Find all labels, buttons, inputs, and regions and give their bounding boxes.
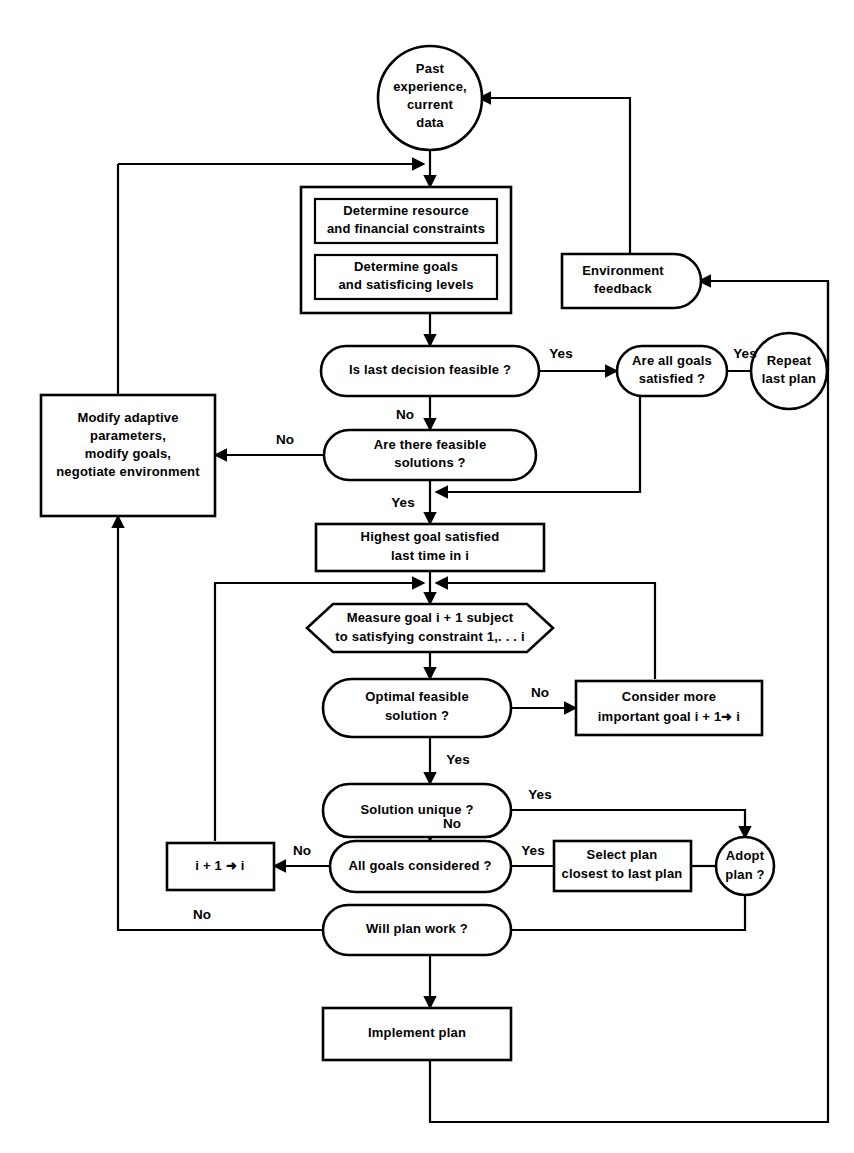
node-determine-goals: Determine goals and satisficing levels <box>315 255 497 299</box>
node-optimal-feasible-solution: Optimal feasible solution ? <box>323 679 511 737</box>
node-implement-plan-label: Implement plan <box>368 1025 466 1040</box>
node-past-experience-line-0: Past <box>416 61 445 76</box>
node-select-plan-closest: Select plan closest to last plan <box>554 841 691 891</box>
node-repeat-last-plan-line-1: last plan <box>762 371 817 386</box>
node-increment-i: i + 1 ➜ i <box>167 843 274 890</box>
node-is-last-decision-feasible-label: Is last decision feasible ? <box>349 362 511 377</box>
node-highest-goal-satisfied: Highest goal satisfied last time in i <box>316 524 544 571</box>
edge-label-optimal-no: No <box>531 685 549 700</box>
edge-label-allconsidered-no: No <box>293 843 311 858</box>
node-repeat-last-plan-line-0: Repeat <box>767 353 812 368</box>
node-consider-more-important-goal: Consider more important goal i + 1➜ i <box>576 681 762 735</box>
node-highest-goal-satisfied-line-0: Highest goal satisfied <box>361 529 500 544</box>
node-determine-resource-line-0: Determine resource <box>343 203 469 218</box>
node-determine-goals-line-1: and satisficing levels <box>338 277 473 292</box>
node-all-goals-considered-label: All goals considered ? <box>348 858 491 873</box>
node-implement-plan: Implement plan <box>323 1008 511 1060</box>
node-environment-feedback-line-1: feedback <box>594 281 653 296</box>
node-determine-resource-line-1: and financial constraints <box>327 221 485 236</box>
node-measure-goal-line-0: Measure goal i + 1 subject <box>347 610 514 625</box>
edge-label-feasiblesol-no: No <box>276 432 294 447</box>
edge-label-feasiblesol-yes: Yes <box>391 495 414 510</box>
node-select-plan-closest-line-0: Select plan <box>587 847 658 862</box>
node-measure-goal-line-1: to satisfying constraint 1,. . . i <box>335 629 525 644</box>
flowchart-canvas: Past experience, current data Determine … <box>0 0 854 1153</box>
node-environment-feedback-line-0: Environment <box>582 263 664 278</box>
node-past-experience-line-2: current <box>407 97 454 112</box>
node-are-there-feasible-solutions-line-0: Are there feasible <box>374 437 487 452</box>
node-modify-adaptive: Modify adaptive parameters, modify goals… <box>41 395 215 516</box>
node-past-experience: Past experience, current data <box>378 46 482 150</box>
node-are-there-feasible-solutions: Are there feasible solutions ? <box>324 430 536 480</box>
node-adopt-plan-line-1: plan ? <box>725 867 764 882</box>
node-repeat-last-plan: Repeat last plan <box>751 333 827 409</box>
node-past-experience-line-1: experience, <box>393 79 467 94</box>
edge-label-unique-no: No <box>443 816 461 831</box>
edge-label-feasible-yes: Yes <box>549 346 572 361</box>
edge-label-allconsidered-yes: Yes <box>521 843 544 858</box>
node-all-goals-considered: All goals considered ? <box>330 841 511 892</box>
flowchart-diagram: Past experience, current data Determine … <box>0 0 854 1153</box>
edge-label-unique-yes: Yes <box>528 787 551 802</box>
node-environment-feedback: Environment feedback <box>562 254 701 308</box>
node-determine-goals-line-0: Determine goals <box>354 259 458 274</box>
node-past-experience-line-3: data <box>416 115 444 130</box>
node-modify-adaptive-line-0: Modify adaptive <box>77 410 178 425</box>
node-adopt-plan: Adopt plan ? <box>716 837 774 895</box>
node-highest-goal-satisfied-line-1: last time in i <box>391 548 469 563</box>
edge-adopt-to-willplanwork <box>511 894 745 930</box>
node-are-all-goals-satisfied: Are all goals satisfied ? <box>617 346 727 396</box>
edge-label-feasible-no: No <box>396 407 414 422</box>
node-consider-more-important-goal-line-0: Consider more <box>622 689 716 704</box>
node-determine-resource: Determine resource and financial constra… <box>315 199 497 243</box>
edge-label-willplanwork-no: No <box>193 907 211 922</box>
node-select-plan-closest-line-1: closest to last plan <box>561 866 682 881</box>
node-are-all-goals-satisfied-line-1: satisfied ? <box>639 371 706 386</box>
edge-unique-yes <box>511 810 745 838</box>
node-modify-adaptive-line-2: modify goals, <box>85 446 171 461</box>
node-increment-i-label: i + 1 ➜ i <box>195 858 244 873</box>
edge-label-allgoals-yes: Yes <box>733 346 756 361</box>
node-adopt-plan-line-0: Adopt <box>726 848 765 863</box>
node-are-all-goals-satisfied-line-0: Are all goals <box>632 353 712 368</box>
node-measure-goal: Measure goal i + 1 subject to satisfying… <box>307 604 553 652</box>
node-is-last-decision-feasible: Is last decision feasible ? <box>321 346 539 396</box>
node-consider-more-important-goal-line-1: important goal i + 1➜ i <box>598 709 740 724</box>
node-will-plan-work: Will plan work ? <box>323 905 511 955</box>
node-will-plan-work-label: Will plan work ? <box>366 921 468 936</box>
node-are-there-feasible-solutions-line-1: solutions ? <box>394 455 466 470</box>
edge-label-optimal-yes: Yes <box>446 752 469 767</box>
node-modify-adaptive-line-3: negotiate environment <box>56 464 200 479</box>
node-solution-unique: Solution unique ? <box>323 784 511 837</box>
node-modify-adaptive-line-1: parameters, <box>90 428 166 443</box>
node-optimal-feasible-solution-line-1: solution ? <box>385 708 449 723</box>
node-optimal-feasible-solution-line-0: Optimal feasible <box>365 689 469 704</box>
